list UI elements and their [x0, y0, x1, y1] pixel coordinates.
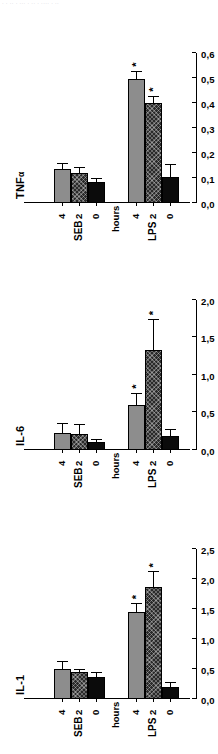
category-tick [79, 699, 80, 702]
value-axis-tick [192, 77, 196, 78]
error-bar-cap [165, 165, 176, 166]
category-tick-label: 0 [90, 461, 101, 466]
value-axis-tick-label: 0,5 [201, 409, 215, 420]
error-bar-line [62, 662, 63, 669]
significance-asterisk: * [131, 62, 142, 66]
time-axis-label: hours [110, 702, 121, 728]
group-label-seb: SEB [73, 716, 84, 737]
value-axis-tick-label: 0,5 [201, 665, 215, 676]
error-bar-cap [148, 96, 159, 97]
error-bar-line [136, 604, 137, 612]
value-axis-tick [192, 177, 196, 178]
error-bar-cap [165, 430, 176, 431]
significance-asterisk: * [148, 563, 159, 567]
error-bar-cap [57, 423, 68, 424]
category-tick [153, 203, 154, 206]
category-tick-label: 0 [164, 214, 175, 219]
value-axis-tick-label: 0,5 [201, 74, 215, 85]
group-label-lps: LPS [147, 469, 158, 488]
error-bar-line [170, 431, 171, 436]
value-axis-tick-label: 2,5 [201, 545, 215, 556]
bar [71, 434, 88, 450]
chart-panel-il-1: 0,00,51,01,52,02,5cDNA/cfIL-10*2*4024LPS… [0, 500, 218, 754]
group-label-seb: SEB [73, 467, 84, 488]
category-tick [153, 699, 154, 702]
value-axis-line [196, 53, 197, 203]
category-tick-label: 4 [56, 461, 67, 466]
value-axis-tick [192, 52, 196, 53]
error-bar-cap [165, 682, 176, 683]
category-tick [79, 203, 80, 206]
category-tick-label: 2 [147, 214, 158, 219]
error-bar-cap [91, 672, 102, 673]
value-axis-tick [192, 102, 196, 103]
category-tick [96, 699, 97, 702]
error-bar-cap [74, 424, 85, 425]
value-axis-tick-label: 0,0 [201, 446, 215, 457]
value-axis-tick [192, 449, 196, 450]
chart-panel-tnf-: 0,00,10,20,30,40,50,6cDNA/cfTNFα0*2*4024… [0, 6, 218, 256]
plot-area: 0,00,51,01,52,0cDNA/cfIL-60*2*4024LPSSEB… [14, 262, 204, 494]
category-tick [62, 450, 63, 453]
bar [162, 687, 179, 699]
category-tick [62, 203, 63, 206]
error-bar-line [170, 683, 171, 687]
category-tick-label: 4 [130, 214, 141, 219]
value-axis-tick-label: 0,2 [201, 149, 215, 160]
error-bar-line [62, 164, 63, 169]
value-axis-tick [192, 202, 196, 203]
category-tick-label: 4 [56, 214, 67, 219]
value-axis-tick [192, 608, 196, 609]
bar [54, 434, 71, 451]
group-label-lps: LPS [147, 222, 158, 241]
value-axis-tick [192, 127, 196, 128]
error-bar-line [153, 572, 154, 587]
category-tick [96, 450, 97, 453]
category-tick [79, 450, 80, 453]
error-bar-cap [148, 571, 159, 572]
bar [54, 669, 71, 699]
value-axis-tick-label: 2,0 [201, 296, 215, 307]
value-axis-tick [192, 152, 196, 153]
bar [88, 677, 105, 699]
plot-area: 0,00,51,01,52,02,5cDNA/cfIL-10*2*4024LPS… [14, 511, 204, 743]
error-bar-line [96, 440, 97, 442]
value-axis-tick [192, 698, 196, 699]
error-bar-cap [74, 167, 85, 168]
value-axis-tick-label: 0,1 [201, 174, 215, 185]
category-tick-label: 4 [130, 710, 141, 715]
rotated-plot-container: 0,00,10,20,30,40,50,6cDNA/cfTNFα0*2*4024… [14, 15, 204, 247]
value-axis-tick-label: 1,0 [201, 635, 215, 646]
error-bar-line [96, 179, 97, 182]
category-tick [170, 699, 171, 702]
category-tick-label: 0 [90, 214, 101, 219]
group-label-seb: SEB [73, 220, 84, 241]
category-tick-label: 2 [147, 710, 158, 715]
value-axis-tick-label: 0,0 [201, 199, 215, 210]
panel-title: IL-6 [14, 426, 26, 446]
bar [71, 672, 88, 699]
time-axis-label: hours [110, 206, 121, 232]
category-tick [96, 203, 97, 206]
error-bar-cap [91, 178, 102, 179]
category-tick [170, 450, 171, 453]
chart-panel-il-6: 0,00,51,01,52,0cDNA/cfIL-60*2*4024LPSSEB… [0, 256, 218, 500]
error-bar-cap [91, 439, 102, 440]
bar [128, 612, 145, 699]
value-axis-tick-label: 0,4 [201, 99, 215, 110]
error-bar-line [62, 424, 63, 434]
error-bar-cap [57, 163, 68, 164]
value-axis-tick [192, 578, 196, 579]
bar [128, 405, 145, 450]
value-axis-tick [192, 638, 196, 639]
significance-asterisk: * [148, 87, 159, 91]
category-tick [62, 699, 63, 702]
category-tick-label: 4 [56, 710, 67, 715]
value-axis-tick-label: 1,5 [201, 334, 215, 345]
panel-title: IL-1 [14, 675, 26, 695]
significance-asterisk: * [148, 311, 159, 315]
value-axis-line [196, 549, 197, 699]
bar [54, 169, 71, 203]
significance-asterisk: * [131, 384, 142, 388]
value-axis-tick [192, 548, 196, 549]
